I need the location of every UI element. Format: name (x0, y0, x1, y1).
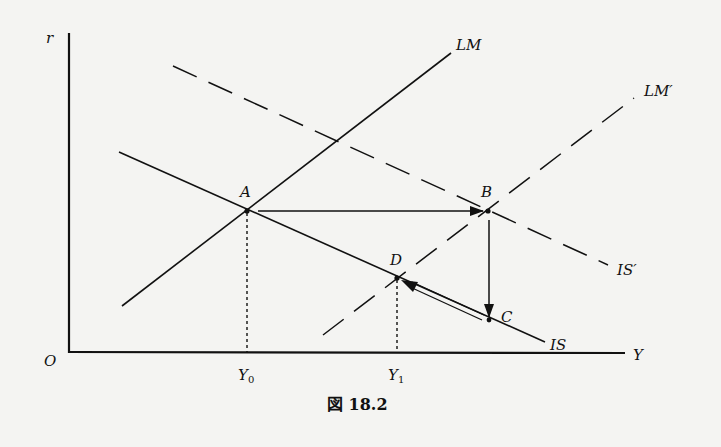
x-axis (68, 352, 625, 353)
point-a (244, 208, 249, 213)
lm-prime-label: LM′ (643, 82, 673, 100)
lm-prime-curve (323, 98, 634, 335)
arrow-c-to-d (401, 280, 484, 320)
point-b-label: B (480, 183, 492, 201)
figure-caption: 図 18.2 (327, 395, 388, 414)
x-axis-label: Y (633, 346, 645, 364)
y0-tick-label: Y0 (238, 366, 254, 385)
point-c (487, 318, 492, 323)
lm-label: LM (455, 36, 482, 54)
is-prime-curve (173, 66, 608, 265)
point-d (394, 275, 399, 280)
is-prime-label: IS′ (616, 261, 637, 279)
is-label: IS (549, 336, 566, 354)
islm-diagram: r Y O LM LM′ IS IS′ A B C D Y0 Y1 図 18.2 (0, 0, 721, 447)
point-c-label: C (501, 308, 513, 326)
origin-label: O (44, 352, 56, 370)
point-a-label: A (238, 183, 251, 201)
y-axis-label: r (46, 29, 54, 47)
y1-tick-label: Y1 (388, 366, 404, 385)
point-b (485, 208, 490, 213)
point-d-label: D (389, 251, 402, 269)
